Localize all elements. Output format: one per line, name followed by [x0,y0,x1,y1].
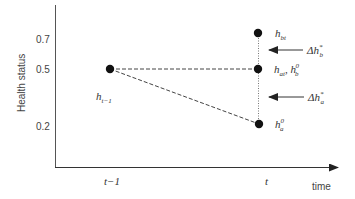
y-axis-label: Health status [16,54,27,112]
label-h-at-h-b0: hat, h0b [274,62,299,78]
label-h-bt: hbt [275,27,287,42]
y-tick-0.7: 0.7 [36,34,50,45]
point-h-a0 [255,120,263,128]
x-tick-t: t [265,175,269,187]
label-delta-ha: Δh*a [307,90,324,106]
label-h-a0: h0a [275,117,285,133]
label-h-t-minus-1: ht−1 [96,90,112,105]
dashed-line-diagonal [110,69,259,124]
y-tick-0.5: 0.5 [36,64,50,75]
point-h-at [254,65,262,73]
y-tick-0.2: 0.2 [36,121,50,132]
point-h-bt [254,29,262,37]
point-h-t-minus-1 [106,65,114,73]
label-delta-hb: Δh*b [306,43,323,59]
health-status-diagram: 0.7 0.5 0.2 Health status t−1 t time ht−… [0,0,355,199]
x-axis-label: time [312,181,331,192]
x-tick-t-minus-1: t−1 [104,175,120,187]
